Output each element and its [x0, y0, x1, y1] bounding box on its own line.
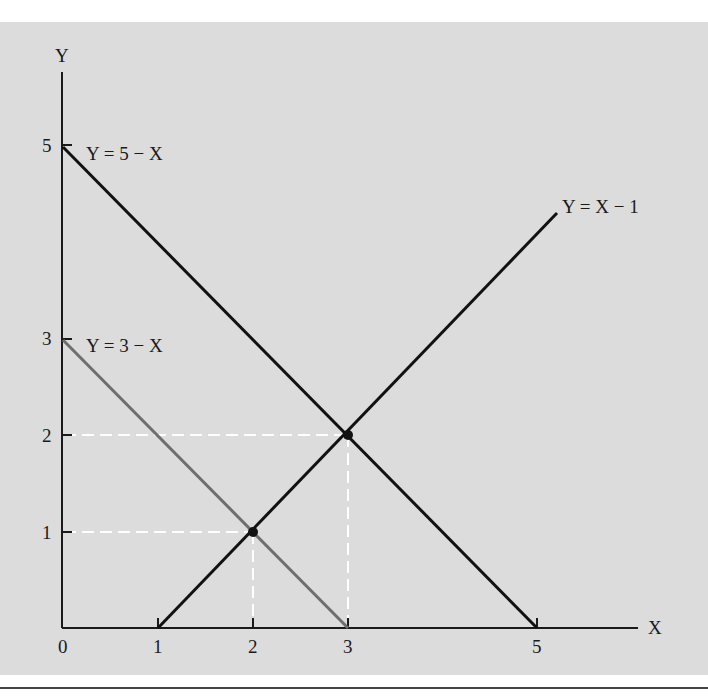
- label-y-x-minus-1: Y = X − 1: [562, 196, 639, 217]
- intersection-point-3-2: [343, 430, 353, 440]
- label-y-5-minus-x: Y = 5 − X: [86, 143, 163, 164]
- line-y-3-minus-x: [63, 340, 348, 628]
- x-tick-2: 2: [248, 636, 258, 657]
- y-tick-2: 2: [42, 425, 52, 446]
- y-tick-3: 3: [42, 328, 52, 349]
- x-tick-1: 1: [153, 636, 163, 657]
- x-tick-0: 0: [58, 636, 68, 657]
- y-tick-5: 5: [42, 135, 52, 156]
- line-y-5-minus-x: [63, 147, 537, 628]
- guide-lines: [64, 435, 348, 626]
- label-y-3-minus-x: Y = 3 − X: [86, 335, 163, 356]
- intersection-point-2-1: [248, 527, 258, 537]
- line-y-x-minus-1: [158, 213, 557, 628]
- x-axis-label: X: [648, 617, 662, 638]
- y-axis-label: Y: [55, 45, 69, 66]
- x-tick-5: 5: [532, 636, 542, 657]
- line-diagram: Y X 5 3 2 1 0 1 2 3 5 Y = 5 − X Y = 3 − …: [0, 0, 708, 696]
- y-tick-1: 1: [42, 522, 52, 543]
- x-tick-3: 3: [343, 636, 353, 657]
